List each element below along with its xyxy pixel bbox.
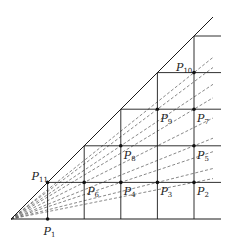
- point-p4-dot: [119, 181, 123, 185]
- dashed-ray: [11, 57, 213, 219]
- point-p10-dot: [192, 71, 196, 75]
- label-subscript: 3: [168, 191, 172, 199]
- point-label-p8: P8: [123, 149, 136, 163]
- point-label-p10: P10: [175, 61, 192, 75]
- dashed-rays: [11, 57, 213, 219]
- point-p1-dot: [46, 217, 50, 221]
- label-subscript: 10: [183, 67, 192, 75]
- geometric-diagram: P1P2P3P4P5P6P7P8P9P10P11: [0, 0, 229, 240]
- point-p6-dot: [82, 181, 86, 185]
- diagonal-line: [11, 17, 213, 219]
- label-subscript: 2: [204, 191, 208, 199]
- label-subscript: 5: [204, 155, 208, 163]
- label-subscript: 9: [168, 118, 172, 126]
- labeled-points: P1P2P3P4P5P6P7P8P9P10P11: [31, 61, 209, 239]
- point-p2-dot: [192, 181, 196, 185]
- dashed-ray: [11, 84, 213, 219]
- dashed-ray: [11, 118, 213, 219]
- point-label-p4: P4: [123, 185, 136, 199]
- point-p9-dot: [156, 107, 160, 111]
- label-subscript: 1: [51, 231, 55, 239]
- point-label-p11: P11: [31, 170, 48, 184]
- label-subscript: 7: [204, 118, 208, 126]
- point-label-p5: P5: [196, 149, 209, 163]
- point-label-p3: P3: [159, 185, 172, 199]
- point-label-p1: P1: [43, 225, 56, 239]
- label-subscript: 4: [131, 191, 136, 199]
- dashed-ray: [11, 68, 213, 220]
- label-subscript: 8: [131, 155, 135, 163]
- point-label-p9: P9: [159, 112, 172, 126]
- point-p3-dot: [156, 181, 160, 185]
- label-subscript: 6: [95, 191, 100, 199]
- point-p7-dot: [192, 107, 196, 111]
- point-p8-dot: [119, 144, 123, 148]
- point-p5-dot: [192, 144, 196, 148]
- label-subscript: 11: [39, 176, 48, 184]
- dashed-ray: [11, 98, 213, 219]
- point-label-p2: P2: [196, 185, 209, 199]
- point-label-p6: P6: [86, 185, 99, 199]
- axes: [11, 17, 221, 219]
- dashed-ray: [11, 152, 213, 219]
- point-label-p7: P7: [196, 112, 209, 126]
